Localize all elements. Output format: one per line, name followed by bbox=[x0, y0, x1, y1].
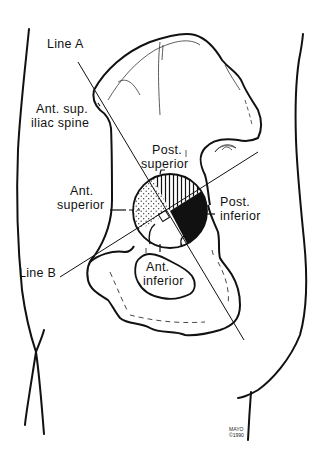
post-inferior-label-line2: inferior bbox=[220, 209, 261, 223]
ant-inferior-label-line1: Ant. bbox=[146, 260, 169, 274]
ant-inferior-label-line2: inferior bbox=[143, 274, 184, 288]
asis-label-line2: iliac spine bbox=[31, 116, 89, 130]
pelvis-diagram: Line A Line B Ant. sup. iliac spine Post… bbox=[0, 0, 328, 452]
ant-superior-label-line2: superior bbox=[57, 198, 105, 212]
asis-leader bbox=[98, 103, 100, 106]
ant-superior-label-line1: Ant. bbox=[70, 184, 93, 198]
asis-label-line1: Ant. sup. bbox=[36, 102, 88, 116]
line-a-label: Line A bbox=[47, 37, 84, 51]
credit-line2: ©1990 bbox=[229, 433, 244, 438]
line-b-label: Line B bbox=[19, 266, 56, 280]
post-superior-label-line1: Post. bbox=[152, 143, 182, 157]
post-superior-label-line2: superior bbox=[141, 157, 189, 171]
pelvis-drawing bbox=[0, 0, 328, 452]
acetabulum-quadrants bbox=[120, 156, 224, 270]
body-outline-left bbox=[17, 29, 44, 434]
post-inferior-label-line1: Post. bbox=[220, 195, 250, 209]
